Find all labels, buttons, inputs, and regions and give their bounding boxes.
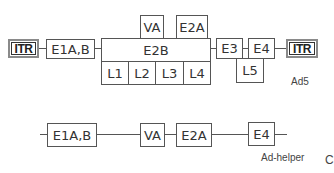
itr-left-label: ITR <box>11 42 36 55</box>
itr-right-label: ITR <box>289 42 315 55</box>
ad5-va-box: VA <box>140 15 164 39</box>
connector-e4-end <box>275 134 287 135</box>
helper-e1ab-box: E1A,B <box>47 123 97 147</box>
itr-right-box: ITR <box>286 39 318 58</box>
connector-start-e1ab <box>40 134 47 135</box>
helper-e2a-box: E2A <box>176 123 212 147</box>
ad5-l1-box: L1 <box>101 61 129 85</box>
connector-va-e2a <box>165 134 176 135</box>
ad5-l2-box: L2 <box>128 61 156 85</box>
ad5-e4-box: E4 <box>248 38 275 59</box>
ad5-e2a-box: E2A <box>176 15 208 39</box>
itr-left-box: ITR <box>8 39 39 58</box>
connector-e1ab-va <box>97 134 140 135</box>
helper-va-box: VA <box>140 123 165 147</box>
ad-helper-label: Ad-helper <box>261 152 304 163</box>
helper-e4-box: E4 <box>248 122 275 146</box>
ad5-l4-box: L4 <box>183 61 211 85</box>
connector-e2a-e4 <box>212 134 248 135</box>
ad5-l5-box: L5 <box>236 58 264 83</box>
ad5-l3-box: L3 <box>155 61 184 85</box>
connector-itr-e1ab <box>39 48 46 49</box>
panel-letter: C <box>325 153 334 167</box>
ad5-e3-box: E3 <box>216 38 243 59</box>
connector-e4-itr <box>275 48 286 49</box>
ad5-label: Ad5 <box>291 76 309 87</box>
ad5-e2b-box: E2B <box>101 38 211 62</box>
ad5-e1ab-box: E1A,B <box>46 39 95 59</box>
